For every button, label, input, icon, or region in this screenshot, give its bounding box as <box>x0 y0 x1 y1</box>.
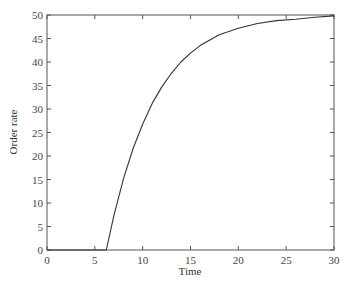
x-tick-label: 20 <box>233 254 245 266</box>
series-line <box>47 16 334 250</box>
x-axis-ticks: 051015202530 <box>44 15 340 266</box>
y-axis-ticks: 05101520253035404550 <box>32 9 334 256</box>
y-tick-label: 35 <box>32 80 44 92</box>
x-tick-label: 25 <box>281 254 293 266</box>
x-tick-label: 5 <box>92 254 98 266</box>
y-tick-label: 25 <box>32 127 44 139</box>
y-tick-label: 15 <box>32 174 44 186</box>
data-series <box>47 16 334 250</box>
y-tick-label: 45 <box>32 33 44 45</box>
y-tick-label: 0 <box>38 244 44 256</box>
line-chart: 05101520253035404550 051015202530 Time O… <box>0 0 359 287</box>
y-tick-label: 40 <box>32 56 44 68</box>
y-tick-label: 5 <box>38 221 44 233</box>
y-tick-label: 20 <box>32 150 44 162</box>
y-tick-label: 30 <box>32 103 44 115</box>
plot-frame <box>47 15 334 250</box>
y-tick-label: 50 <box>32 9 44 21</box>
x-tick-label: 30 <box>329 254 341 266</box>
x-tick-label: 10 <box>137 254 149 266</box>
y-axis-label: Order rate <box>7 109 19 154</box>
x-axis-label: Time <box>179 265 202 277</box>
y-tick-label: 10 <box>32 197 44 209</box>
plot-border <box>47 15 334 250</box>
x-tick-label: 0 <box>44 254 50 266</box>
